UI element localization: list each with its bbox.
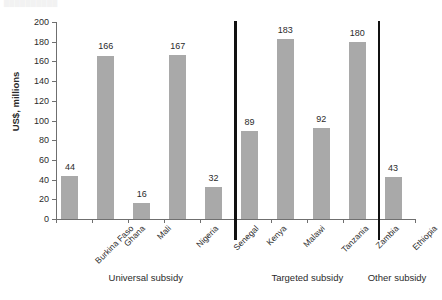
y-axis-line — [56, 22, 57, 219]
bar-value-label: 32 — [194, 174, 234, 183]
y-tick — [52, 160, 56, 161]
y-tick-label: 180 — [34, 37, 49, 46]
y-tick-label: 0 — [44, 215, 49, 224]
bar-mali — [133, 203, 150, 219]
y-tick-label: 140 — [34, 77, 49, 86]
bar-value-label: 92 — [301, 115, 341, 124]
y-tick — [52, 22, 56, 23]
x-tick — [271, 219, 272, 223]
bar-value-label: 180 — [337, 29, 377, 38]
x-label-mali: Mali — [155, 224, 172, 241]
y-tick-label: 40 — [39, 175, 49, 184]
y-axis-title: US$, millions — [10, 57, 21, 147]
y-tick — [52, 140, 56, 141]
bar-value-label: 183 — [265, 26, 305, 35]
group-divider — [378, 21, 380, 240]
x-label-tanzania: Tanzania — [340, 224, 370, 254]
x-tick — [56, 219, 57, 223]
y-tick-label: 100 — [34, 116, 49, 125]
bar-kenya — [241, 131, 258, 219]
figure-title-remnant: ██████████ — [4, 0, 58, 6]
bar-value-label: 166 — [86, 42, 126, 51]
bar-tanzania — [313, 128, 330, 219]
y-tick-label: 60 — [39, 155, 49, 164]
y-tick-label: 80 — [39, 136, 49, 145]
x-tick — [415, 219, 416, 223]
y-tick — [52, 199, 56, 200]
bar-zambia — [349, 42, 366, 219]
bar-value-label: 44 — [50, 163, 90, 172]
group-divider — [234, 21, 236, 240]
x-label-nigeria: Nigeria — [195, 224, 220, 249]
y-tick — [52, 81, 56, 82]
bar-senegal — [205, 187, 222, 219]
y-tick-label: 120 — [34, 96, 49, 105]
bar-ghana — [97, 56, 114, 220]
group-label-universal-subsidy: Universal subsidy — [86, 272, 206, 283]
bar-value-label: 16 — [122, 190, 162, 199]
y-tick — [52, 180, 56, 181]
x-label-ethiopia: Ethiopia — [411, 224, 439, 252]
x-tick — [200, 219, 201, 223]
bar-value-label: 167 — [158, 42, 198, 51]
x-tick — [343, 219, 344, 223]
x-label-kenya: Kenya — [265, 224, 288, 247]
plot-area: 020406080100120140160180200 441661616732… — [56, 22, 415, 219]
bar-burkina-faso — [61, 176, 78, 219]
y-tick-label: 160 — [34, 57, 49, 66]
y-tick — [52, 121, 56, 122]
x-tick — [92, 219, 93, 223]
x-tick — [164, 219, 165, 223]
y-tick — [52, 42, 56, 43]
y-tick-label: 20 — [39, 195, 49, 204]
x-label-malawi: Malawi — [302, 224, 327, 249]
y-tick-label: 200 — [34, 18, 49, 27]
y-tick — [52, 101, 56, 102]
bar-ethiopia — [385, 177, 402, 219]
bar-nigeria — [169, 55, 186, 219]
x-tick — [307, 219, 308, 223]
bar-malawi — [277, 39, 294, 219]
group-label-other-subsidy: Other subsidy — [337, 272, 442, 283]
y-tick — [52, 61, 56, 62]
